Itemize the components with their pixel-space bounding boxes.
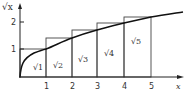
y-axis-arrow-icon xyxy=(18,3,22,9)
y-tick-label-2: 2 xyxy=(11,18,16,27)
x-tick-label-4: 4 xyxy=(122,82,127,91)
x-axis-label: x xyxy=(176,82,181,91)
x-tick-label-5: 5 xyxy=(149,82,154,91)
sqrt-curve xyxy=(20,12,183,77)
rect-label-5: √5 xyxy=(131,37,141,46)
x-tick-label-2: 2 xyxy=(70,82,75,91)
rect-label-2: √2 xyxy=(53,61,63,70)
rect-5 xyxy=(124,17,151,77)
rect-label-3: √3 xyxy=(78,55,88,64)
y-tick-label-1: 1 xyxy=(11,45,16,54)
y-axis-label: √x xyxy=(2,2,13,12)
x-axis-arrow-icon xyxy=(177,75,184,79)
x-tick-label-1: 1 xyxy=(44,82,49,91)
sqrt-riemann-diagram: √x x 1 2 1 2 3 4 5 √1 √2 √3 √4 √5 xyxy=(0,0,187,93)
x-tick-label-3: 3 xyxy=(95,82,100,91)
rect-label-1: √1 xyxy=(33,63,43,72)
rect-label-4: √4 xyxy=(104,49,114,58)
